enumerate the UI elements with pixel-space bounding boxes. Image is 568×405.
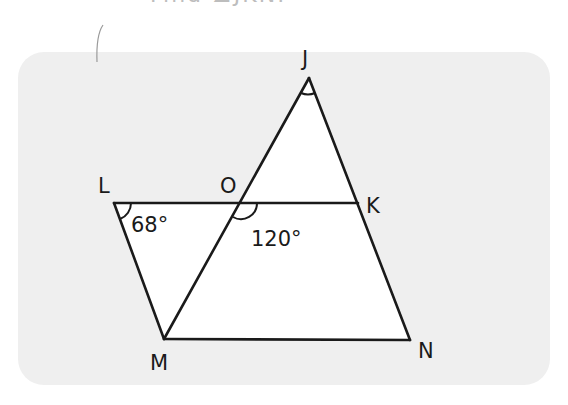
label-J: J	[300, 47, 308, 71]
segment-MN	[164, 339, 410, 340]
geometry-diagram: J L O K M N 68° 120°	[0, 0, 568, 405]
angle-O-measure: 120°	[251, 227, 302, 251]
label-N: N	[418, 339, 434, 363]
label-K: K	[366, 194, 381, 218]
label-O: O	[220, 174, 237, 198]
angle-L-measure: 68°	[131, 213, 168, 237]
label-L: L	[98, 174, 110, 198]
label-M: M	[150, 351, 168, 375]
pencil-mark	[97, 25, 103, 62]
